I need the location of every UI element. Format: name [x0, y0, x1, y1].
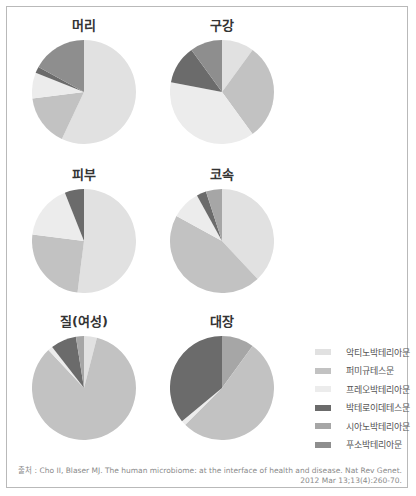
pie-title-vagina: 질(여성)	[24, 311, 144, 330]
legend-swatch	[315, 349, 331, 355]
pie-title-nose: 코속	[162, 164, 282, 183]
pie-title-head: 머리	[24, 15, 144, 34]
pie-oral	[170, 40, 274, 144]
legend-swatch	[315, 405, 331, 411]
legend-swatch	[315, 386, 331, 392]
legend-item: 퍼미규테스문	[315, 362, 410, 381]
pie-title-oral: 구강	[162, 15, 282, 34]
legend-item: 푸소박테리아문	[315, 436, 410, 455]
legend-swatch	[315, 423, 331, 429]
pie-head	[32, 40, 136, 144]
legend-swatch	[315, 442, 331, 448]
legend: 악티노박테리아문 퍼미규테스문 프레오박테리아문 박테로이데테스문 시아노박테리…	[315, 343, 410, 454]
legend-item: 박테로이데테스문	[315, 399, 410, 418]
pie-gut	[170, 336, 274, 440]
pie-slice	[77, 189, 136, 293]
pie-title-gut: 대장	[162, 311, 282, 330]
pie-nose	[170, 189, 274, 293]
source-citation: 출처 : Cho II, Blaser MJ. The human microb…	[18, 466, 402, 486]
pie-skin	[32, 189, 136, 293]
legend-item: 프레오박테리아문	[315, 380, 410, 399]
pie-slice	[32, 234, 84, 292]
legend-item: 악티노박테리아문	[315, 343, 410, 362]
legend-swatch	[315, 368, 331, 374]
legend-item: 시아노박테리아문	[315, 417, 410, 436]
pie-title-skin: 피부	[24, 164, 144, 183]
pie-vagina	[32, 336, 136, 440]
